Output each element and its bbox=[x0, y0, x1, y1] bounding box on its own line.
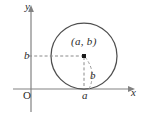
x-axis-label: x bbox=[131, 87, 136, 98]
y-axis-label: y bbox=[25, 1, 30, 12]
center-coordinate-label: (a, b) bbox=[71, 36, 97, 47]
origin-label: O bbox=[23, 90, 31, 101]
circle-diagram: y x O (a, b) b b a bbox=[0, 0, 143, 122]
x-tangent-label: a bbox=[82, 90, 88, 101]
diagram-canvas bbox=[0, 0, 143, 122]
radius-length-label: b bbox=[90, 70, 96, 81]
center-point-dot bbox=[82, 54, 86, 58]
y-intercept-label: b bbox=[24, 50, 30, 61]
